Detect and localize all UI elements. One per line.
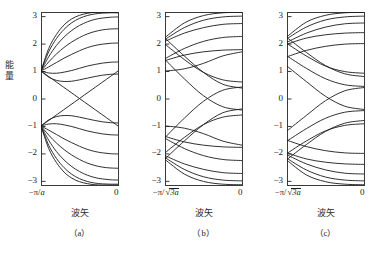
y-tick-label: 2 [267, 38, 283, 48]
band-curve [287, 33, 364, 45]
y-tick-label: −1 [267, 120, 283, 130]
y-tick-label: 1 [267, 65, 283, 75]
plot-frame-c [288, 13, 365, 186]
band-curve [287, 44, 364, 57]
band-curve [287, 140, 364, 153]
energy-band-figure: 能 量 3210−1−2−3−π/a0波矢（a） 3210−1−2−3−π/√3… [0, 0, 378, 254]
y-tick-label: −2 [267, 147, 283, 157]
x-tick-label-right: 0 [360, 187, 365, 197]
band-curve [287, 111, 364, 141]
band-curves-c [287, 12, 364, 184]
y-tick-label: −3 [267, 175, 283, 185]
x-tick-label-left: −π/√3a [275, 187, 301, 197]
y-tick-label: 3 [267, 10, 283, 20]
band-curve [287, 44, 364, 74]
band-curve [287, 56, 364, 86]
band-curve [287, 153, 364, 165]
y-tick-label: 0 [267, 93, 283, 103]
x-axis-label-c: 波矢 [296, 206, 356, 219]
panel-caption-c: （c） [296, 226, 356, 238]
band-curve [287, 124, 364, 154]
